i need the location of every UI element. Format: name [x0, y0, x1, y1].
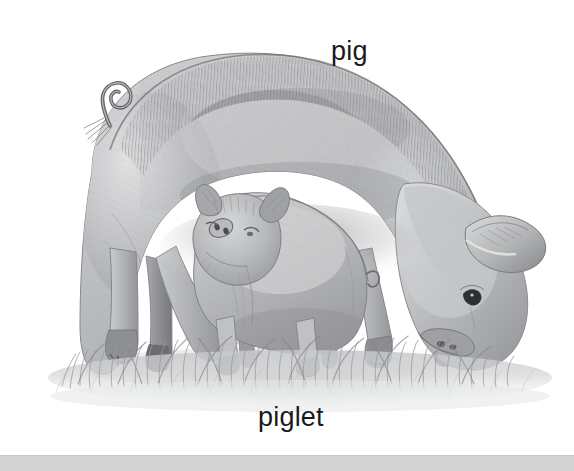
illustration-page: pig piglet — [0, 0, 574, 471]
label-pig: pig — [331, 38, 368, 65]
label-piglet: piglet — [258, 404, 324, 431]
bottom-bar — [0, 456, 574, 471]
pig-and-piglet-illustration — [0, 0, 574, 471]
